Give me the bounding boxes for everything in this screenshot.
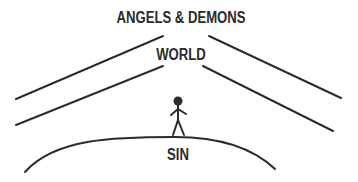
sin-arc [25,137,275,172]
lower-right-line [203,66,333,131]
diagram-canvas: ANGELS & DEMONS WORLD SIN [0,0,358,182]
angels-demons-label: ANGELS & DEMONS [114,9,248,27]
sin-label: SIN [159,146,197,164]
upper-right-line [209,36,341,98]
upper-left-line [16,36,163,99]
stick-figure-icon [171,97,186,136]
world-label: WORLD [155,46,207,64]
lower-left-line [16,66,163,125]
